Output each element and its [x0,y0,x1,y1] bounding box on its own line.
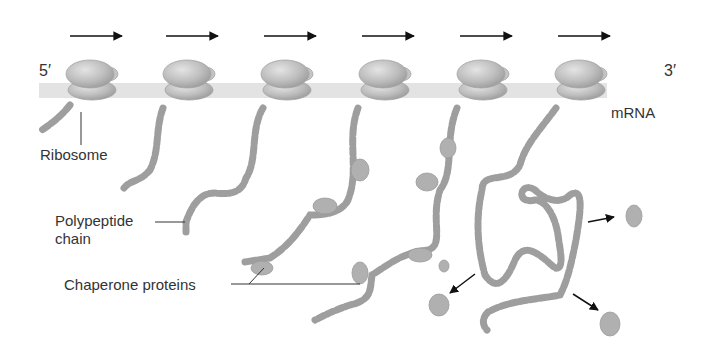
diagram-canvas [0,0,706,352]
three-prime-label: 3′ [664,62,676,80]
polypeptide-label-line1: Polypeptide [55,212,133,230]
polypeptide-label-line2: chain [55,230,133,248]
arrow-icon [573,294,598,310]
ribosome-5 [457,60,509,100]
chaperone-label: Chaperone proteins [64,276,196,294]
polypeptide-chain-3 [186,108,263,232]
polypeptide-chain-2 [124,108,163,188]
ribosome-2 [163,60,215,100]
polypeptide-chain-1 [42,105,70,130]
mrna-label: mRNA [611,104,655,122]
polypeptide-label: Polypeptide chain [55,212,133,248]
arrow-icon [450,274,475,293]
polypeptide-chain-4 [245,108,358,262]
ribosome-label: Ribosome [40,146,108,164]
ribosome-1 [66,60,118,100]
polyribosome-diagram: 5′ 3′ mRNA Ribosome Polypeptide chain Ch… [0,0,706,352]
five-prime-label: 5′ [39,62,51,80]
ribosome-4 [359,60,411,100]
polypeptide-chain-6 [478,108,580,330]
arrow-icon [588,217,614,222]
leader-lines [81,112,360,284]
ribosome-6 [555,60,607,100]
ribosome-3 [261,60,313,100]
